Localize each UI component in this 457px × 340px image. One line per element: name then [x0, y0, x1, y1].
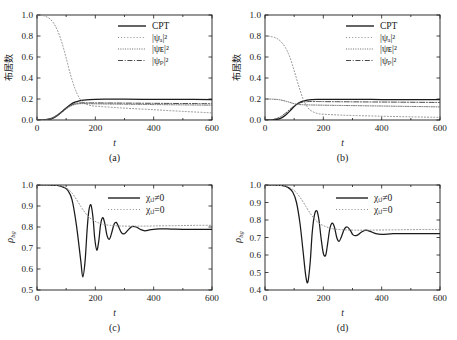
- panel-b-ytick: 0.6: [250, 52, 262, 62]
- panel-d-ytick: 0.5: [250, 268, 262, 278]
- panel-a-plot: 02004006000.00.20.40.60.81.0 布居数 CPT|ψₐ|…: [0, 0, 229, 150]
- panel-b-ytick: 0.4: [250, 73, 262, 83]
- panel-a-ytick: 0.0: [22, 115, 34, 125]
- panel-d-ticks: [265, 185, 440, 290]
- panel-c-ylabel: ρbg: [4, 231, 16, 244]
- legend-label-0: χᵢⱼ≠0: [145, 193, 164, 203]
- panel-d-legend: χᵢⱼ≠0χᵢⱼ=0: [336, 193, 393, 215]
- panel-d-xtick: 600: [433, 293, 447, 303]
- panel-b-tick-labels: 02004006000.00.20.40.60.81.0: [250, 10, 448, 133]
- panel-d-plot: 02004006000.40.50.60.70.80.91.0 ρbg χᵢⱼ≠…: [228, 170, 457, 320]
- panel-d-xlabel: t: [228, 308, 457, 318]
- panel-b-legend: CPT|ψₐ|²|ψᴇ|²|ψₚ|²: [346, 21, 398, 66]
- panel-d-ytick: 0.9: [250, 198, 262, 208]
- panel-b-xtick: 600: [433, 123, 447, 133]
- curve-ij0: [37, 185, 212, 277]
- legend-label-0: χᵢⱼ≠0: [373, 193, 392, 203]
- panel-b-xtick: 0: [263, 123, 268, 133]
- panel-b-ytick: 1.0: [250, 10, 262, 20]
- panel-c: 02004006000.50.60.70.80.91.0 ρbg χᵢⱼ≠0χᵢ…: [0, 170, 229, 340]
- panel-a-xtick: 600: [205, 123, 219, 133]
- panel-d-axes: [265, 185, 440, 290]
- curve-ij0: [265, 185, 440, 230]
- legend-label-1: |ψₐ|²: [152, 33, 167, 43]
- panel-d: 02004006000.40.50.60.70.80.91.0 ρbg χᵢⱼ≠…: [228, 170, 457, 340]
- curve-a: [37, 15, 212, 113]
- panel-b-xlabel: t: [228, 138, 457, 148]
- panel-c-axes: [37, 185, 212, 290]
- panel-c-ytick: 0.5: [22, 285, 34, 295]
- panel-c-ytick: 0.8: [22, 222, 34, 232]
- panel-b-ticks: [265, 15, 440, 120]
- panel-b-curves: [265, 36, 440, 120]
- panel-a-legend: CPT|ψₐ|²|ψᴇ|²|ψₚ|²: [118, 21, 170, 66]
- panel-a-ytick: 0.6: [22, 52, 34, 62]
- panel-c-ylabel-text: ρbg: [4, 231, 16, 244]
- panel-c-ytick: 0.6: [22, 264, 34, 274]
- legend-label-0: CPT: [380, 21, 398, 31]
- panel-a-ytick: 1.0: [22, 10, 34, 20]
- panel-c-legend: χᵢⱼ≠0χᵢⱼ=0: [108, 193, 165, 215]
- legend-label-2: |ψᴇ|²: [380, 44, 397, 54]
- panel-c-plot: 02004006000.50.60.70.80.91.0 ρbg χᵢⱼ≠0χᵢ…: [0, 170, 229, 320]
- panel-a-ylabel: 布居数: [3, 54, 14, 81]
- panel-d-xtick: 200: [316, 293, 330, 303]
- legend-label-1: χᵢⱼ=0: [145, 205, 165, 215]
- panel-d-curves: [265, 185, 440, 283]
- panel-c-xtick: 200: [88, 293, 102, 303]
- panel-d-ytick: 0.7: [250, 233, 262, 243]
- panel-d-ytick: 1.0: [250, 180, 262, 190]
- legend-label-3: |ψₚ|²: [152, 56, 169, 66]
- panel-a-tick-labels: 02004006000.00.20.40.60.81.0: [22, 10, 220, 133]
- legend-label-1: |ψₐ|²: [380, 33, 395, 43]
- panel-a-caption: (a): [0, 152, 229, 163]
- panel-a-ytick: 0.8: [22, 31, 34, 41]
- panel-c-ytick: 0.9: [22, 201, 34, 211]
- curve-ij0: [265, 185, 440, 283]
- panel-a-xtick: 0: [35, 123, 40, 133]
- legend-label-1: χᵢⱼ=0: [373, 205, 393, 215]
- panel-c-ticks: [37, 185, 212, 290]
- panel-c-xtick: 600: [205, 293, 219, 303]
- panel-c-ytick: 0.7: [22, 243, 34, 253]
- panel-b-ytick: 0.2: [250, 94, 262, 104]
- panel-b-xtick: 200: [316, 123, 330, 133]
- figure-container: 02004006000.00.20.40.60.81.0 布居数 CPT|ψₐ|…: [0, 0, 457, 340]
- panel-a-xlabel: t: [0, 138, 229, 148]
- panel-b: 02004006000.00.20.40.60.81.0 布居数 CPT|ψₐ|…: [228, 0, 457, 170]
- panel-a-xtick: 200: [88, 123, 102, 133]
- panel-d-xtick: 400: [375, 293, 389, 303]
- panel-c-xtick: 0: [35, 293, 40, 303]
- panel-b-ytick: 0.0: [250, 115, 262, 125]
- panel-a-ylabel-text: 布居数: [3, 54, 14, 81]
- panel-b-ylabel-text: 布居数: [231, 54, 242, 81]
- panel-d-caption: (d): [228, 322, 457, 333]
- curve-ij0: [37, 185, 212, 226]
- panel-b-axes: [265, 15, 440, 120]
- panel-c-ytick: 1.0: [22, 180, 34, 190]
- panel-d-ytick: 0.4: [250, 285, 262, 295]
- panel-b-xtick: 400: [375, 123, 389, 133]
- panel-d-ylabel: ρbg: [232, 231, 244, 244]
- panel-d-ytick: 0.6: [250, 250, 262, 260]
- panel-a: 02004006000.00.20.40.60.81.0 布居数 CPT|ψₐ|…: [0, 0, 229, 170]
- legend-label-0: CPT: [152, 21, 170, 31]
- panel-a-ytick: 0.4: [22, 73, 34, 83]
- panel-b-ylabel: 布居数: [231, 54, 242, 81]
- curve-p: [265, 102, 440, 120]
- panel-b-plot: 02004006000.00.20.40.60.81.0 布居数 CPT|ψₐ|…: [228, 0, 457, 150]
- panel-d-ylabel-text: ρbg: [232, 231, 244, 244]
- panel-c-curves: [37, 185, 212, 277]
- panel-a-xtick: 400: [147, 123, 161, 133]
- panel-c-xlabel: t: [0, 308, 229, 318]
- panel-d-ytick: 0.8: [250, 215, 262, 225]
- panel-b-ytick: 0.8: [250, 31, 262, 41]
- legend-label-2: |ψᴇ|²: [152, 44, 169, 54]
- panel-d-xtick: 0: [263, 293, 268, 303]
- panel-c-caption: (c): [0, 322, 229, 333]
- panel-a-ytick: 0.2: [22, 94, 34, 104]
- legend-label-3: |ψₚ|²: [380, 56, 397, 66]
- panel-a-curves: [37, 15, 212, 120]
- panel-c-xtick: 400: [147, 293, 161, 303]
- panel-b-caption: (b): [228, 152, 457, 163]
